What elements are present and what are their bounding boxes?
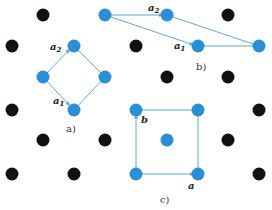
basis-lattice-point [99, 9, 112, 22]
lattice-point [161, 71, 174, 84]
basis-lattice-point [192, 168, 205, 181]
basis-lattice-point [161, 134, 174, 147]
lattice-point [68, 168, 81, 181]
label-b-cell-c: b [141, 114, 148, 125]
lattice-point [253, 104, 266, 117]
basis-lattice-point [68, 40, 81, 53]
lattice-point [6, 40, 19, 53]
cell-a-edge [74, 77, 105, 110]
lattice-point [6, 104, 19, 117]
basis-lattice-point [130, 168, 143, 181]
lattice-point [37, 134, 50, 147]
lattice-point [253, 168, 266, 181]
lattice-point [222, 9, 235, 22]
basis-lattice-point [253, 40, 266, 53]
basis-lattice-point [192, 40, 205, 53]
lattice-point [99, 134, 112, 147]
caption-a: a) [66, 123, 76, 134]
basis-lattice-point [99, 71, 112, 84]
cell-a-edge [74, 46, 105, 77]
label-a2-cell-b: a2 [148, 2, 159, 15]
lattice-point [37, 9, 50, 22]
basis-lattice-point [37, 71, 50, 84]
cell-b [105, 15, 259, 46]
caption-b: b) [196, 61, 206, 72]
basis-lattice-point [192, 104, 205, 117]
lattice-point [130, 40, 143, 53]
label-a2-cell-a: a2 [50, 41, 61, 54]
lattice-diagram: a2 a1 a) a2 a1 b) b a c) [0, 0, 272, 210]
caption-c: c) [160, 194, 170, 205]
lattice-point [222, 71, 235, 84]
cell-b-edge [167, 15, 259, 46]
lattice-point [222, 134, 235, 147]
basis-lattice-point [68, 104, 81, 117]
lattice-point [6, 168, 19, 181]
basis-lattice-point [161, 9, 174, 22]
label-a1-cell-a: a1 [53, 95, 64, 108]
label-a-cell-c: a [188, 180, 194, 191]
